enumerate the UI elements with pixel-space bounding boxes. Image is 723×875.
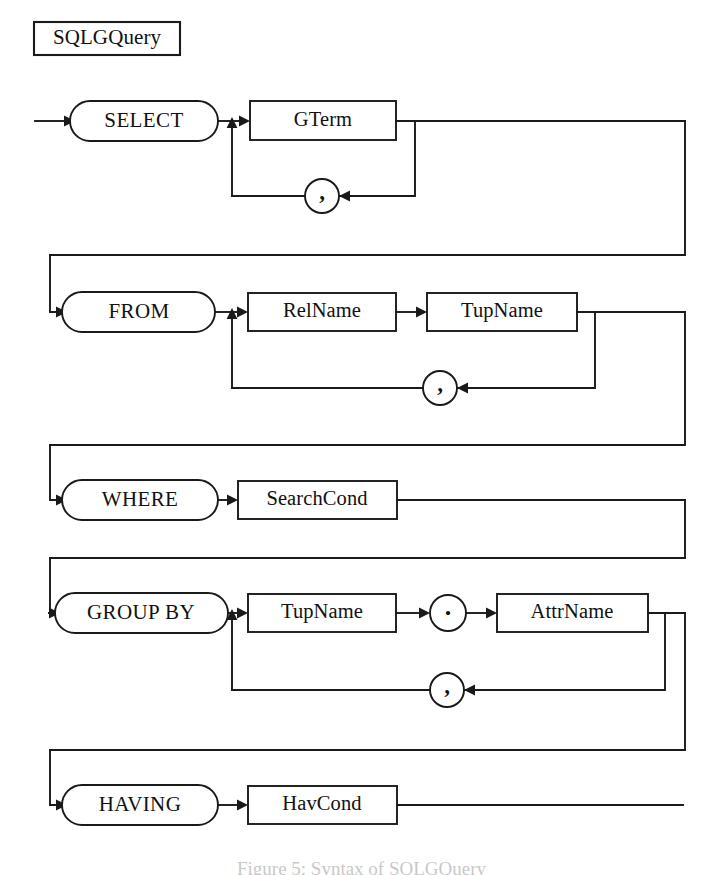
entry-line-groupby [49, 558, 50, 613]
entry-line-having [50, 750, 56, 805]
groupby-keyword-label: GROUP BY [87, 600, 195, 624]
arrowhead-tupname-from [416, 307, 427, 318]
arrowhead-havcond [237, 800, 248, 811]
entry-line-from [50, 255, 56, 312]
arrowhead-gterm [239, 116, 250, 127]
loop-arrowhead-groupby [464, 685, 475, 696]
title-label: SQLGQuery [53, 25, 162, 49]
row-where: WHERE SearchCond [50, 445, 685, 558]
loop-return-arrowhead-select [227, 117, 238, 128]
select-keyword-label: SELECT [104, 108, 183, 132]
diagram-title: SQLGQuery [34, 22, 180, 55]
from-comma-label: , [437, 371, 443, 396]
row-having: HAVING HavCond [50, 750, 683, 825]
group-comma-label: , [444, 673, 450, 698]
arrowhead-dot [419, 608, 430, 619]
arrowhead-relname [237, 307, 248, 318]
loop-arrowhead-from [457, 383, 468, 394]
relname-label: RelName [283, 299, 361, 321]
arrowhead-attrname [486, 608, 497, 619]
havcond-label: HavCond [282, 792, 361, 814]
tupname-group-label: TupName [281, 600, 363, 623]
arrowhead-searchcond [227, 495, 238, 506]
tupname-from-label: TupName [461, 299, 543, 322]
dot-label: . [445, 592, 452, 621]
from-keyword-label: FROM [108, 299, 169, 323]
where-keyword-label: WHERE [102, 487, 179, 511]
loop-arrowhead-select [339, 191, 350, 202]
row-select: SELECT GTerm , [35, 101, 685, 255]
searchcond-label: SearchCond [266, 487, 367, 509]
railroad-diagram-canvas: SQLGQuery SELECT GTerm [0, 0, 723, 875]
having-keyword-label: HAVING [99, 792, 182, 816]
attrname-label: AttrName [531, 600, 614, 622]
gterm-label: GTerm [294, 108, 352, 130]
arrowhead-tupname-group [237, 608, 248, 619]
loop-return-arrowhead-from [227, 308, 238, 319]
railroad-diagram: SQLGQuery SELECT GTerm [0, 0, 723, 875]
row-from: FROM RelName TupName [50, 255, 685, 445]
entry-line-where [50, 445, 56, 500]
select-comma-label: , [319, 179, 325, 204]
row-group-by: GROUP BY TupName . AttrName [49, 558, 685, 750]
